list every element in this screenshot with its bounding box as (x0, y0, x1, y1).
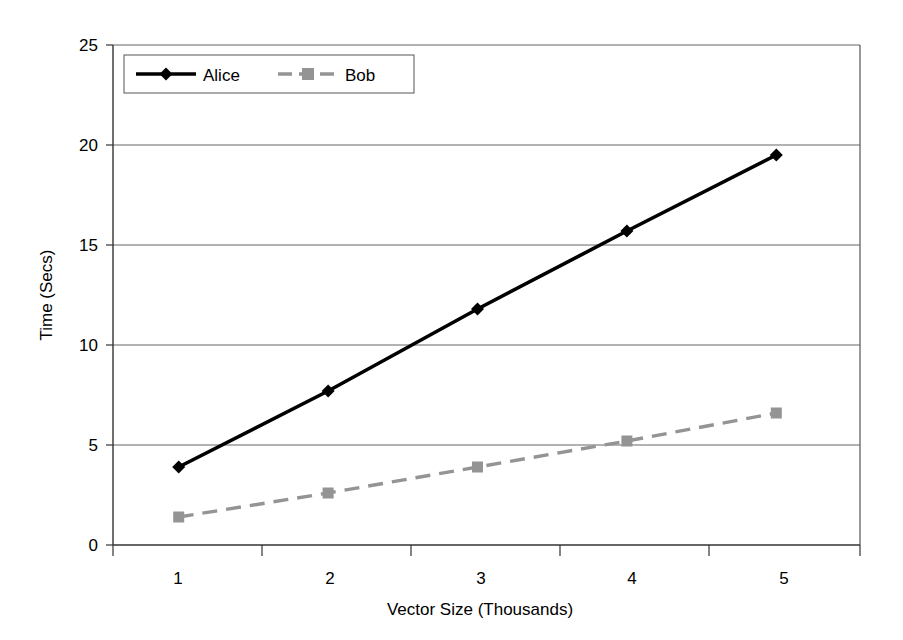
y-tick-label-25: 25 (79, 36, 98, 55)
data-point-bob-4 (621, 436, 632, 447)
legend-label-alice: Alice (203, 66, 240, 85)
y-tick-label-5: 5 (89, 436, 98, 455)
x-tick-label-1: 1 (173, 569, 182, 588)
x-tick-label-3: 3 (476, 569, 485, 588)
legend-label-bob: Bob (345, 66, 375, 85)
plot-background (113, 45, 860, 545)
line-chart: 25 20 15 10 5 0 Time (Secs) 1 2 3 4 5 Ve… (0, 0, 903, 640)
data-point-bob-5 (771, 408, 782, 419)
chart-container: 25 20 15 10 5 0 Time (Secs) 1 2 3 4 5 Ve… (0, 0, 903, 640)
data-point-bob-3 (472, 462, 483, 473)
chart-legend: Alice Bob (124, 55, 414, 93)
y-tick-label-0: 0 (89, 536, 98, 555)
y-axis-ticks (106, 45, 113, 545)
x-tick-label-4: 4 (627, 569, 636, 588)
x-tick-label-2: 2 (325, 569, 334, 588)
y-tick-label-10: 10 (79, 336, 98, 355)
data-point-bob-1 (173, 512, 184, 523)
y-tick-label-15: 15 (79, 236, 98, 255)
x-axis-ticks (113, 545, 860, 556)
x-axis-title: Vector Size (Thousands) (387, 600, 573, 619)
data-point-bob-2 (323, 488, 334, 499)
x-tick-label-5: 5 (779, 569, 788, 588)
y-tick-label-20: 20 (79, 136, 98, 155)
legend-marker-bob-square-icon (302, 68, 314, 80)
y-axis-title: Time (Secs) (37, 250, 56, 341)
